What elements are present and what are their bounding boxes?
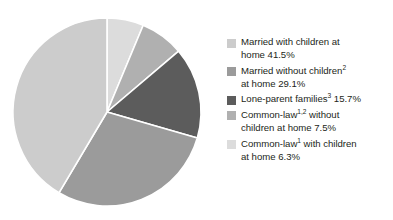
legend-swatch-married-without-children	[227, 67, 236, 76]
legend-label-lone-parent-families: Lone-parent families3 15.7%	[241, 92, 361, 105]
chart-legend: Married with children at home 41.5% Marr…	[227, 35, 393, 165]
legend-swatch-lone-parent-families	[227, 96, 236, 105]
pie-chart-figure: Married with children at home 41.5% Marr…	[0, 0, 393, 220]
legend-item[interactable]: Common-law1,2 without children at home 7…	[227, 108, 393, 134]
legend-item[interactable]: Lone-parent families3 15.7%	[227, 92, 393, 105]
legend-label-married-with-children: Married with children at home 41.5%	[241, 35, 340, 61]
legend-item[interactable]: Married without children2 at home 29.1%	[227, 64, 393, 90]
legend-label-common-law-without-children: Common-law1,2 without children at home 7…	[241, 108, 339, 134]
legend-swatch-common-law-with-children	[227, 140, 236, 149]
pie-chart-plot-area	[0, 0, 215, 220]
legend-label-married-without-children: Married without children2 at home 29.1%	[241, 64, 346, 90]
pie-slice-group	[13, 18, 201, 206]
legend-swatch-common-law-without-children	[227, 111, 236, 120]
legend-swatch-married-with-children	[227, 39, 236, 48]
legend-item[interactable]: Common-law1 with children at home 6.3%	[227, 137, 393, 163]
legend-label-common-law-with-children: Common-law1 with children at home 6.3%	[241, 137, 357, 163]
pie-chart-svg	[0, 0, 215, 220]
legend-item[interactable]: Married with children at home 41.5%	[227, 35, 393, 61]
